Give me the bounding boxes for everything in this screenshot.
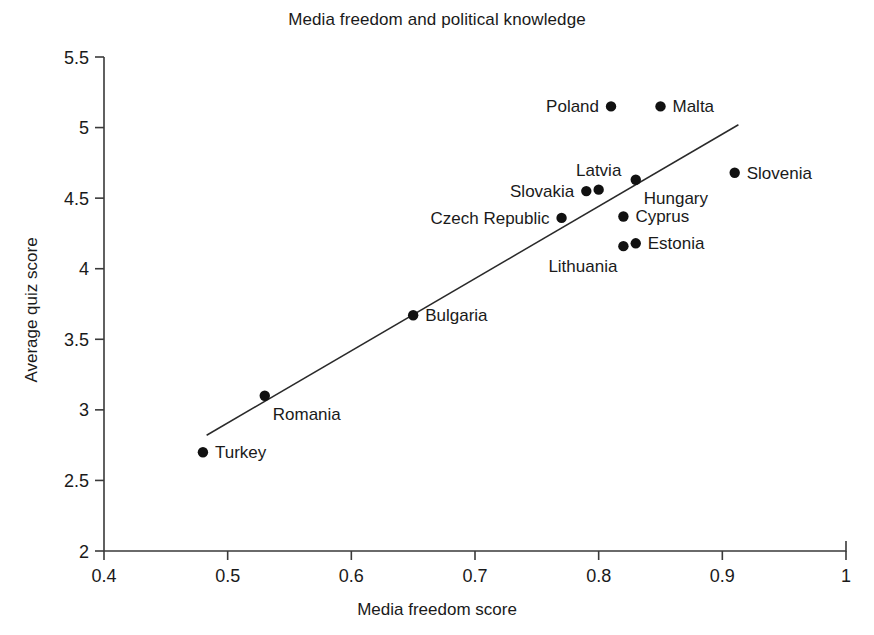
trend-line xyxy=(207,125,739,436)
data-point-label: Slovenia xyxy=(747,164,813,183)
data-point-label: Turkey xyxy=(215,443,267,462)
data-point-label: Hungary xyxy=(644,189,709,208)
y-axis-title: Average quiz score xyxy=(22,110,42,510)
data-points: PolandMaltaSloveniaHungaryLatviaSlovakia… xyxy=(198,97,813,462)
data-point-marker xyxy=(606,101,616,111)
data-point-marker xyxy=(618,241,628,251)
data-point-label: Bulgaria xyxy=(425,306,488,325)
data-point-marker xyxy=(730,168,740,178)
data-point-marker xyxy=(581,186,591,196)
data-point-label: Lithuania xyxy=(548,257,618,276)
x-tick-label: 0.4 xyxy=(91,566,116,586)
data-point-label: Estonia xyxy=(648,234,705,253)
chart-figure: Media freedom and political knowledge 22… xyxy=(0,0,874,635)
x-axis-title: Media freedom score xyxy=(0,600,874,620)
x-tick-label: 0.5 xyxy=(215,566,240,586)
x-tick-label: 1 xyxy=(841,566,851,586)
data-point-label: Latvia xyxy=(576,161,622,180)
y-tick-label: 5 xyxy=(79,118,89,138)
data-point-marker xyxy=(556,213,566,223)
data-point-label: Czech Republic xyxy=(431,209,551,228)
data-point-marker xyxy=(631,175,641,185)
y-tick-label: 5.5 xyxy=(64,48,89,68)
y-tick-label: 3.5 xyxy=(64,330,89,350)
data-point-marker xyxy=(655,101,665,111)
y-tick-label: 4.5 xyxy=(64,189,89,209)
y-tick-label: 3 xyxy=(79,400,89,420)
data-point-label: Poland xyxy=(546,97,599,116)
data-point-marker xyxy=(260,391,270,401)
data-point-marker xyxy=(631,238,641,248)
data-point-label: Cyprus xyxy=(635,207,689,226)
data-point-marker xyxy=(408,310,418,320)
data-point-marker xyxy=(593,184,603,194)
data-point-label: Romania xyxy=(273,405,342,424)
x-tick-label: 0.6 xyxy=(339,566,364,586)
y-tick-label: 4 xyxy=(79,259,89,279)
x-tick-label: 0.8 xyxy=(586,566,611,586)
y-tick-label: 2 xyxy=(79,542,89,562)
data-point-marker xyxy=(618,211,628,221)
data-point-marker xyxy=(198,447,208,457)
data-point-label: Malta xyxy=(673,97,715,116)
regression-line xyxy=(207,125,739,436)
x-tick-label: 0.9 xyxy=(710,566,735,586)
x-tick-label: 0.7 xyxy=(462,566,487,586)
y-tick-label: 2.5 xyxy=(64,471,89,491)
data-point-label: Slovakia xyxy=(510,182,575,201)
scatter-plot-canvas: 22.533.544.555.50.40.50.60.70.80.91 Pola… xyxy=(0,0,874,635)
